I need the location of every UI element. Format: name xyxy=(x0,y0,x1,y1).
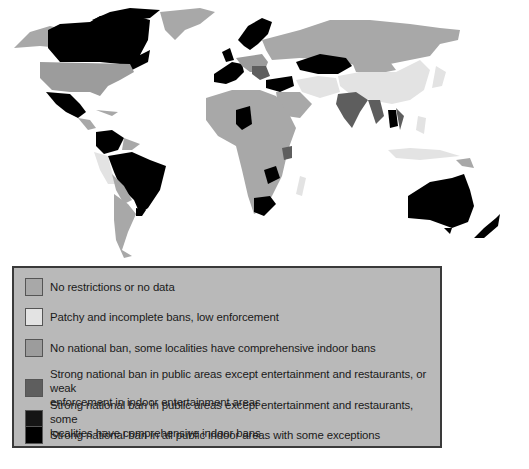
region-balkans xyxy=(252,66,270,80)
region-vietnam xyxy=(396,108,404,130)
region-caribbean xyxy=(96,110,118,116)
region-guianas xyxy=(122,138,140,150)
region-central-america xyxy=(78,118,96,130)
region-new-zealand xyxy=(474,214,500,238)
region-south-africa xyxy=(254,196,276,216)
legend-label: No national ban, some localities have co… xyxy=(50,341,376,355)
legend: No restrictions or no data Patchy and in… xyxy=(12,266,442,448)
legend-swatch xyxy=(25,278,43,296)
region-thailand xyxy=(388,110,398,128)
legend-item-patchy: Patchy and incomplete bans, low enforcem… xyxy=(25,308,279,326)
region-russia xyxy=(262,20,460,66)
region-png xyxy=(456,158,474,168)
region-usa xyxy=(40,62,134,96)
region-myanmar xyxy=(368,100,384,124)
legend-label: No restrictions or no data xyxy=(50,280,175,294)
legend-swatch xyxy=(25,379,43,397)
region-australia xyxy=(408,174,474,228)
region-indonesia xyxy=(388,148,460,160)
region-mexico xyxy=(46,92,86,118)
region-africa xyxy=(206,90,296,214)
region-uk-ireland xyxy=(222,48,234,62)
region-turkey xyxy=(266,76,294,92)
legend-swatch xyxy=(25,339,43,357)
legend-item-localities: No national ban, some localities have co… xyxy=(25,339,376,357)
region-japan xyxy=(432,66,446,88)
region-tasmania xyxy=(444,228,452,234)
legend-item-strong-all: Strong national ban in all public indoor… xyxy=(25,426,380,444)
region-colombia-venezuela xyxy=(96,130,124,154)
legend-label: Strong national ban in all public indoor… xyxy=(50,428,380,442)
region-arctic-islands xyxy=(92,8,160,22)
region-madagascar xyxy=(296,176,306,196)
region-france-spain xyxy=(214,62,244,84)
legend-item-no-restrictions: No restrictions or no data xyxy=(25,278,175,296)
region-greenland xyxy=(160,8,215,40)
region-philippines xyxy=(416,116,426,134)
legend-swatch xyxy=(25,308,43,326)
region-india xyxy=(336,92,368,128)
legend-swatch xyxy=(25,426,43,444)
region-canada xyxy=(48,14,150,70)
legend-label: Patchy and incomplete bans, low enforcem… xyxy=(50,310,279,324)
region-argentina-chile xyxy=(114,194,136,258)
world-map xyxy=(0,0,529,260)
